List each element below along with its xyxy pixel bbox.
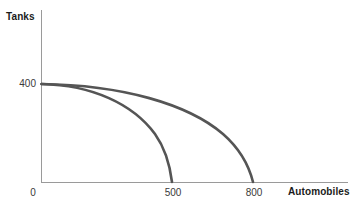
plot-area xyxy=(0,0,354,211)
x-axis-title: Automobiles xyxy=(288,186,350,197)
y-axis-title: Tanks xyxy=(6,11,35,22)
x-axis-tick-800: 800 xyxy=(246,187,263,198)
outer-frontier-curve xyxy=(42,84,254,182)
x-axis-tick-0: 0 xyxy=(30,187,36,198)
ppf-chart: Tanks Automobiles 400 0 500 800 xyxy=(0,0,354,211)
y-axis-tick-400: 400 xyxy=(0,78,36,89)
x-axis-tick-500: 500 xyxy=(165,187,182,198)
